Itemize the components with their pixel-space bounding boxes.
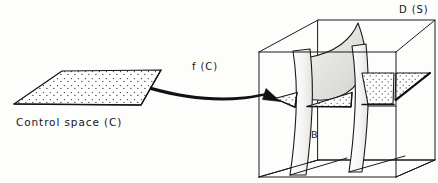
wedge-3 <box>362 73 394 104</box>
mapping-arrow-shaft <box>150 87 270 101</box>
behaviour-space-group <box>259 20 435 177</box>
diagram-canvas: Control space (C) f (C) <box>0 0 438 183</box>
control-space-group <box>14 70 161 105</box>
figure-root: Control space (C) f (C) <box>0 0 438 183</box>
behaviour-space-inner-label: B <box>311 129 318 140</box>
cube-floor-creases <box>259 156 435 177</box>
mapping-arrow-group <box>150 87 281 102</box>
behaviour-space-label: D (S) <box>399 4 429 15</box>
control-space-label: Control space (C) <box>16 116 122 128</box>
mapping-arrow-label: f (C) <box>192 61 218 72</box>
control-space-plane <box>14 70 161 105</box>
fold-sheet-left <box>290 49 312 175</box>
